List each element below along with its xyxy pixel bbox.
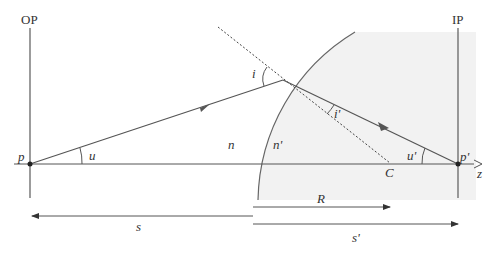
distance-R-label: R [316,191,325,206]
object-point [28,162,33,167]
medium-n-label: n [228,137,235,152]
angle-i-arc [263,67,267,86]
axis-label: z [476,166,482,181]
image-point-label: p' [459,149,470,164]
object-plane-label: OP [21,12,38,27]
diagram-canvas: OP IP p p' C u u' i i' n n' z s R s' [0,0,496,254]
incident-ray-arrow-icon [200,104,210,112]
angle-u-label: u [89,148,96,163]
medium-n-prime-region [258,32,476,200]
center-label: C [385,165,394,180]
image-plane-label: IP [452,12,464,27]
angle-i-prime-label: i' [334,106,341,121]
distance-s-prime-label: s' [352,230,360,245]
distance-s-label: s [136,219,141,234]
angle-u-arc [80,148,82,164]
incident-ray [30,80,283,164]
angle-u-prime-label: u' [407,148,417,163]
object-point-label: p [17,149,25,164]
angle-i-label: i [252,66,256,81]
optics-diagram: OP IP p p' C u u' i i' n n' z s R s' [0,0,496,254]
medium-n-prime-label: n' [273,137,283,152]
